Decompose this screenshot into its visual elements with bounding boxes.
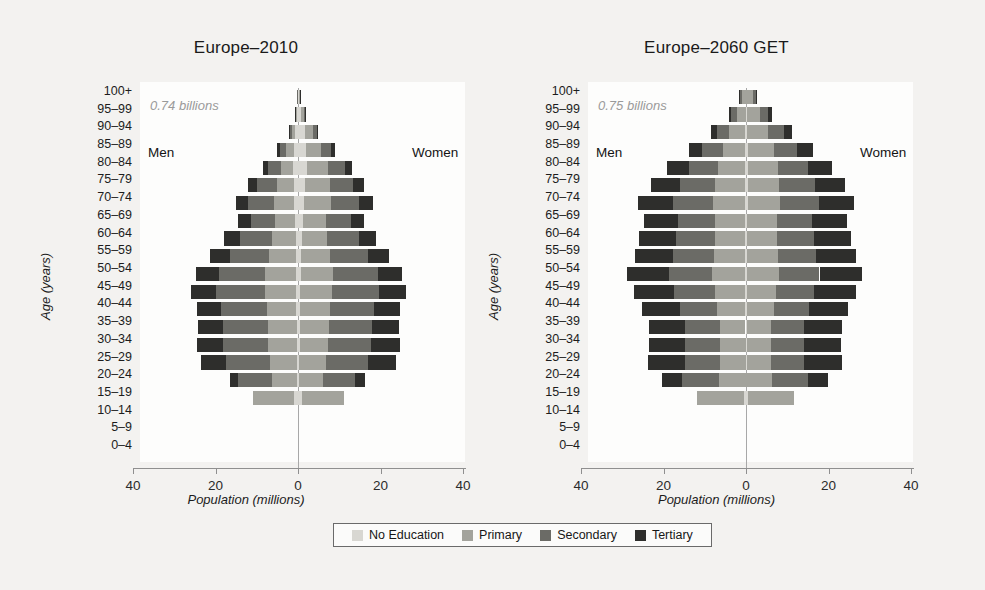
legend-label: Tertiary (652, 528, 693, 542)
panel-europe-2060-get: Europe–2060 GET 0.75 billions Men Women … (448, 0, 985, 590)
panel-europe-2010: Europe–2010 0.74 billions Men Women Age … (0, 0, 492, 590)
legend-item[interactable]: No Education (352, 528, 444, 542)
x-axis-tick-label: 20 (642, 478, 686, 493)
legend-item[interactable]: Tertiary (635, 528, 693, 542)
x-axis-tick-label: 0 (276, 478, 320, 493)
x-axis-tick (133, 468, 134, 474)
x-axis-tick (746, 468, 747, 474)
x-axis-tick (581, 468, 582, 474)
x-axis-tick (298, 468, 299, 474)
legend-swatch-icon (462, 530, 473, 541)
x-axis-tick-label: 40 (889, 478, 933, 493)
figure-canvas: Europe–2010 0.74 billions Men Women Age … (0, 0, 985, 590)
x-axis-tick (381, 468, 382, 474)
legend-swatch-icon (352, 530, 363, 541)
x-axis-tick (911, 468, 912, 474)
legend-label: Secondary (557, 528, 617, 542)
x-axis-tick (829, 468, 830, 474)
legend-label: Primary (479, 528, 522, 542)
legend-swatch-icon (540, 530, 551, 541)
x-axis-title: Population (millions) (448, 492, 985, 507)
legend: No EducationPrimarySecondaryTertiary (333, 523, 712, 547)
x-axis-tick-label: 40 (111, 478, 155, 493)
legend-label: No Education (369, 528, 444, 542)
x-axis-tick (216, 468, 217, 474)
legend-item[interactable]: Secondary (540, 528, 617, 542)
x-axis-tick-label: 40 (559, 478, 603, 493)
legend-swatch-icon (635, 530, 646, 541)
x-axis-tick (664, 468, 665, 474)
x-axis-tick-label: 20 (807, 478, 851, 493)
x-axis-tick-label: 20 (194, 478, 238, 493)
x-axis-tick-label: 20 (359, 478, 403, 493)
legend-item[interactable]: Primary (462, 528, 522, 542)
x-axis-title: Population (millions) (0, 492, 492, 507)
x-axis-tick-label: 0 (724, 478, 768, 493)
